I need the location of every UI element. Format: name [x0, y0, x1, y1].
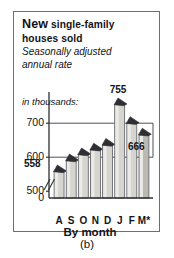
- chart-title-rest: single-family: [51, 19, 115, 30]
- x-axis-title: By month: [22, 226, 158, 238]
- data-label-558: 558: [24, 158, 41, 169]
- chart-title-line-1: New single-family: [22, 17, 158, 31]
- chart-subtitle-line-1: Seasonally adjusted: [22, 46, 158, 58]
- x-axis-label-N: N: [92, 215, 99, 226]
- figure-container: New single-family houses sold Seasonally…: [0, 0, 174, 258]
- y-axis-tick-700: 700: [18, 116, 44, 128]
- x-axis-label-A: A: [55, 215, 62, 226]
- y-axis-tick-0: 0: [18, 191, 44, 203]
- chart-subtitle-line-2: annual rate: [22, 59, 158, 71]
- x-axis-label-O: O: [79, 215, 87, 226]
- data-label-755: 755: [110, 84, 127, 95]
- x-axis-label-F: F: [129, 215, 135, 226]
- x-axis-label-Mstar: M*: [138, 215, 150, 226]
- x-axis-label-S: S: [68, 215, 75, 226]
- title-block: New single-family houses sold Seasonally…: [22, 17, 158, 70]
- plot-area: 7006005000755558666: [22, 86, 158, 214]
- x-axis-label-D: D: [104, 215, 111, 226]
- figure-caption: (b): [0, 238, 174, 250]
- chart-title-line-2: houses sold: [22, 31, 158, 45]
- chart-title-primary: New: [22, 17, 48, 31]
- data-label-666: 666: [128, 141, 145, 152]
- chart-panel: New single-family houses sold Seasonally…: [13, 11, 160, 232]
- x-axis-label-J: J: [117, 215, 123, 226]
